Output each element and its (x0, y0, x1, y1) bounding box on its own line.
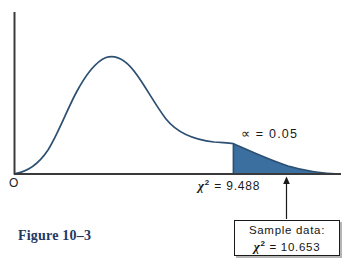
sample-statistic-value: = 10.653 (266, 240, 321, 252)
alpha-significance-label: ∝ = 0.05 (241, 126, 298, 141)
critical-value-label: χ2 = 9.488 (198, 178, 260, 194)
shaded-tail-region (233, 144, 340, 175)
origin-label: O (9, 176, 19, 190)
chi-symbol-icon: χ (198, 178, 205, 193)
critical-value-number: = 9.488 (210, 179, 260, 193)
callout-title: Sample data: (249, 223, 325, 237)
distribution-curve (15, 57, 340, 174)
chi-symbol-icon: χ (254, 238, 261, 253)
callout-statistic: χ2 = 10.653 (254, 237, 321, 254)
sample-data-callout: Sample data: χ2 = 10.653 (234, 220, 340, 256)
callout-arrowhead-icon (283, 177, 290, 185)
figure-container: O ∝ = 0.05 χ2 = 9.488 Sample data: χ2 = … (0, 0, 351, 264)
figure-caption: Figure 10–3 (18, 228, 91, 244)
